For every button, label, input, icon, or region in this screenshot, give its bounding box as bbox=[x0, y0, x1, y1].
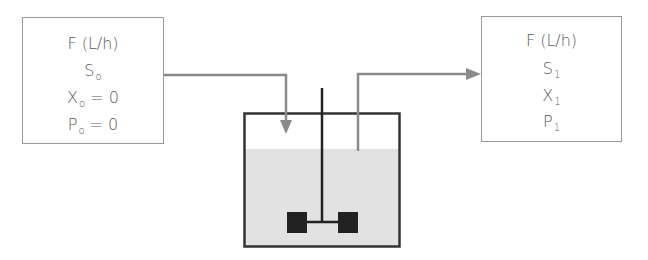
inlet-stream-box: F (L/h) So Xo = 0 Po = 0 bbox=[22, 17, 164, 144]
impeller-blade-left bbox=[287, 212, 307, 233]
inlet-substrate: So bbox=[23, 62, 163, 86]
inlet-flow-rate: F (L/h) bbox=[23, 35, 163, 53]
outlet-stream-box: F (L/h) S1 X1 P1 bbox=[481, 16, 622, 142]
outlet-substrate-subscript: 1 bbox=[554, 69, 560, 80]
inlet-biomass: Xo = 0 bbox=[23, 89, 163, 113]
inlet-substrate-subscript: o bbox=[96, 71, 102, 82]
outlet-substrate: S1 bbox=[482, 60, 621, 84]
outlet-biomass-symbol: X bbox=[542, 86, 553, 105]
outlet-flow-rate: F (L/h) bbox=[482, 32, 621, 50]
inlet-substrate-symbol: S bbox=[84, 61, 94, 80]
outlet-product-subscript: 1 bbox=[554, 122, 560, 133]
inlet-arrow bbox=[164, 75, 286, 122]
impeller-blade-right bbox=[338, 212, 358, 233]
inlet-product-symbol: P bbox=[68, 115, 78, 134]
inlet-flow-label: F (L/h) bbox=[67, 34, 118, 53]
outlet-flow-label: F (L/h) bbox=[526, 31, 577, 50]
inlet-biomass-value: = 0 bbox=[85, 88, 119, 107]
inlet-arrowhead-icon bbox=[280, 120, 292, 134]
outlet-substrate-symbol: S bbox=[543, 59, 553, 78]
outlet-arrowhead-icon bbox=[466, 68, 481, 80]
outlet-biomass: X1 bbox=[482, 87, 621, 111]
inlet-biomass-symbol: X bbox=[67, 88, 78, 107]
inlet-product-value: = 0 bbox=[85, 115, 119, 134]
outlet-biomass-subscript: 1 bbox=[554, 96, 560, 107]
outlet-product-symbol: P bbox=[543, 112, 553, 131]
inlet-product: Po = 0 bbox=[23, 116, 163, 140]
outlet-product: P1 bbox=[482, 113, 621, 137]
